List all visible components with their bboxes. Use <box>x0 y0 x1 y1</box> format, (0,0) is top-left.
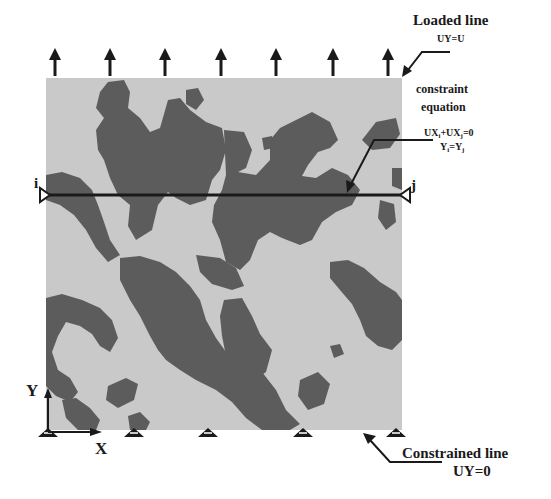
load-arrows <box>49 48 394 76</box>
y-axis-label: Y <box>26 382 38 399</box>
loaded-line-condition: UY=U <box>437 34 464 44</box>
node-i-label: i <box>34 176 38 191</box>
constrained-line-title: Constrained line <box>402 446 508 461</box>
constrained-line-condition: UY=0 <box>453 464 491 479</box>
constraint-equation-ux: UXi+UXj=0 <box>424 128 474 140</box>
node-j-label: j <box>411 178 416 193</box>
x-axis-label: X <box>95 440 107 457</box>
constraint-title-line1: constraint <box>416 83 468 95</box>
loaded-line-title: Loaded line <box>413 13 488 28</box>
constraint-title-line2: equation <box>421 101 466 113</box>
constraint-equation-y: Yi=Yj <box>440 142 464 154</box>
microstructure-diagram <box>0 0 551 499</box>
